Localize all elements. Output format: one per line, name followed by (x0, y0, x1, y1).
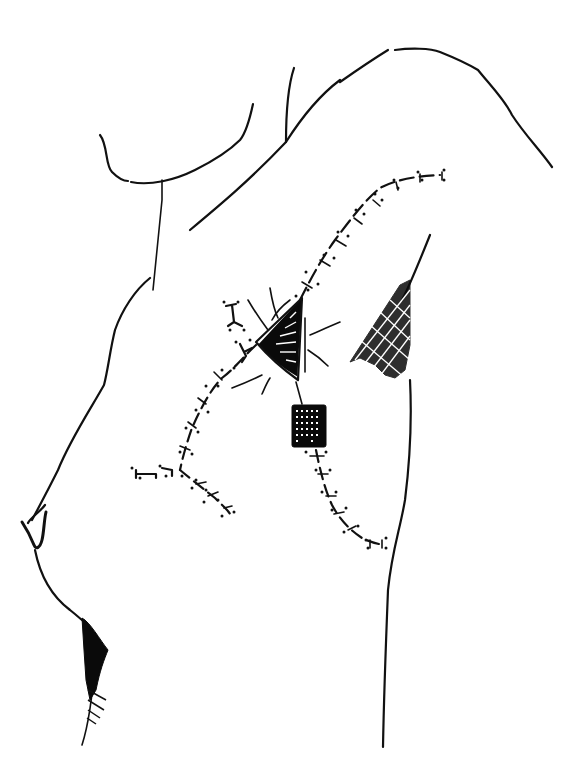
suture-line-lower (305, 450, 388, 550)
drain-pad (292, 382, 326, 447)
suture-line-left (131, 301, 257, 518)
pubic-shading (82, 618, 108, 724)
suture-line-upper (295, 169, 446, 301)
axillary-hair (350, 280, 410, 378)
wound-site (232, 288, 340, 394)
surgical-illustration (0, 0, 580, 757)
